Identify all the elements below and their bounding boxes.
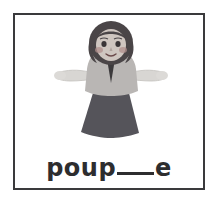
doll-left-cheek [95,47,103,53]
word-suffix: e [155,156,172,180]
doll-left-hand [54,71,66,80]
doll-puppet-illustration [53,21,169,143]
illustration-area [15,15,203,143]
doll-right-cheek [119,47,127,53]
word-prefix: poup [46,156,116,180]
word-blank-field[interactable] [117,172,154,175]
doll-left-eye [101,41,106,47]
worksheet-card: poup e [13,13,205,190]
doll-skirt [81,93,139,138]
vocabulary-word: poup e [46,156,172,180]
doll-right-hand [156,71,168,80]
doll-right-eye [115,41,120,47]
word-answer-line: poup e [15,145,203,190]
